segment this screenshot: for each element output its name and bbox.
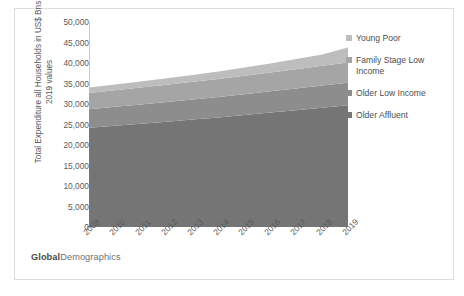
- legend-swatch-icon: [346, 90, 352, 96]
- legend-item-label: Young Poor: [356, 33, 401, 44]
- watermark-bold: Global: [31, 252, 60, 262]
- y-axis-tick-label: 30,000: [43, 99, 89, 109]
- legend-item[interactable]: Older Low Income: [346, 88, 452, 99]
- legend-item-label: Older Affluent: [356, 110, 408, 121]
- legend-item[interactable]: Older Affluent: [346, 110, 452, 121]
- legend-item-label: Older Low Income: [356, 88, 426, 99]
- y-axis-tick-label: 35,000: [43, 79, 89, 89]
- stacked-area-svg: [89, 22, 348, 227]
- y-axis-tick-labels: 05,00010,00015,00020,00025,00030,00035,0…: [43, 22, 89, 227]
- y-axis-tick-label: 40,000: [43, 58, 89, 68]
- legend-swatch-icon: [346, 57, 352, 63]
- watermark: GlobalDemographics: [31, 252, 121, 262]
- y-axis-tick-label: 45,000: [43, 38, 89, 48]
- legend-item[interactable]: Young Poor: [346, 33, 452, 44]
- y-axis-tick-label: 50,000: [43, 17, 89, 27]
- plot-area: [89, 22, 348, 227]
- y-axis-tick-label: 20,000: [43, 140, 89, 150]
- watermark-light: Demographics: [60, 252, 120, 262]
- chart-legend: Young PoorFamily Stage Low IncomeOlder L…: [346, 33, 452, 132]
- y-axis-tick-label: 25,000: [43, 120, 89, 130]
- chart-container: Total Expenditure all Households in US$ …: [14, 8, 454, 280]
- legend-swatch-icon: [346, 112, 352, 118]
- x-axis-tick-labels: 2009201020112012201320142015201620172018…: [89, 230, 348, 270]
- y-axis-tick-label: 10,000: [43, 181, 89, 191]
- y-axis-tick-label: 5,000: [43, 202, 89, 212]
- legend-item[interactable]: Family Stage Low Income: [346, 55, 452, 77]
- legend-item-label: Family Stage Low Income: [356, 55, 452, 77]
- legend-swatch-icon: [346, 35, 352, 41]
- y-axis-tick-label: 15,000: [43, 161, 89, 171]
